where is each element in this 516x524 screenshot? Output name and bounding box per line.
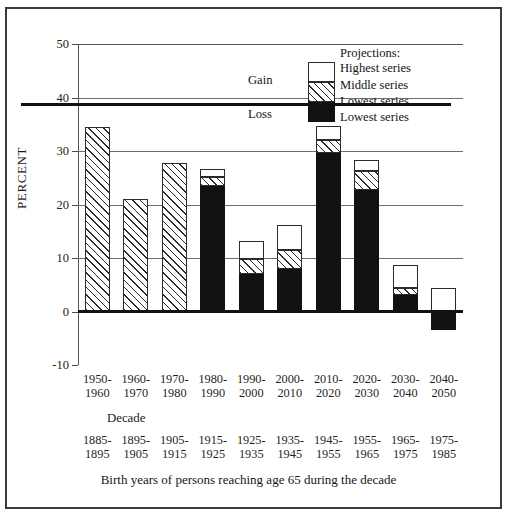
legend-title: Projections: — [340, 46, 400, 61]
y-axis-tick-label: 50 — [57, 37, 70, 52]
x-tick-label-birthyears: 1885-1895 — [78, 433, 117, 461]
x-tick-label-decade: 2000-2010 — [271, 372, 310, 400]
y-axis-tick-label: 30 — [57, 144, 70, 159]
bar-segment-highest — [277, 225, 302, 250]
bar-segment-middle — [277, 250, 302, 269]
x-tick-label-decade: 2010-2020 — [309, 372, 348, 400]
y-axis-title: PERCENT — [14, 147, 30, 209]
bar-segment-middle — [200, 177, 225, 187]
legend-swatch-middle — [308, 82, 335, 102]
x-axis-birthyear-labels: 1885-18951895-19051905-19151915-19251925… — [78, 433, 463, 467]
bar-segment-observed — [85, 127, 110, 312]
bar-1980-1990[interactable] — [200, 44, 225, 365]
bar-segment-lowest — [200, 186, 225, 311]
y-axis-tick-label: -10 — [52, 358, 69, 373]
bottom-caption: Birth years of persons reaching age 65 d… — [0, 472, 497, 488]
legend-gain-label: Gain — [248, 73, 272, 88]
x-tick-label-decade: 1960-1970 — [117, 372, 156, 400]
x-tick-label-decade: 2040-2050 — [425, 372, 464, 400]
x-tick-label-decade: 2030-2040 — [386, 372, 425, 400]
y-axis-tick — [72, 365, 78, 366]
bar-segment-observed — [123, 199, 148, 311]
x-tick-label-birthyears: 1975-1985 — [425, 433, 464, 461]
bar-1950-1960[interactable] — [85, 44, 110, 365]
x-tick-label-birthyears: 1955-1965 — [348, 433, 387, 461]
bar-segment-lowest — [277, 269, 302, 312]
x-tick-label-birthyears: 1935-1945 — [271, 433, 310, 461]
x-tick-label-birthyears: 1925-1935 — [232, 433, 271, 461]
bar-segment-lowest — [354, 190, 379, 312]
legend-item-highest: Highest series — [340, 61, 411, 76]
bar-segment-lowest-negative — [431, 312, 456, 330]
bar-segment-highest — [431, 288, 456, 312]
y-axis-tick-label: 0 — [63, 304, 69, 319]
bar-segment-lowest — [316, 153, 341, 311]
bar-segment-highest — [354, 160, 379, 171]
bar-segment-highest — [239, 241, 264, 259]
bar-segment-lowest — [393, 295, 418, 312]
x-tick-label-decade: 1980-1990 — [194, 372, 233, 400]
bar-segment-lowest — [239, 274, 264, 311]
legend: Projections: Highest series Middle serie… — [236, 46, 451, 130]
x-tick-label-birthyears: 1895-1905 — [117, 433, 156, 461]
legend-item-lowest-upper: Lowest series — [340, 94, 409, 109]
y-axis-tick-label: 20 — [57, 197, 70, 212]
legend-swatch — [308, 62, 335, 122]
legend-swatch-highest — [308, 62, 335, 82]
x-tick-label-birthyears: 1965-1975 — [386, 433, 425, 461]
x-tick-label-decade: 1990-2000 — [232, 372, 271, 400]
legend-item-lowest: Lowest series — [340, 110, 409, 125]
y-axis-tick-label: 10 — [57, 251, 70, 266]
bar-segment-highest — [200, 169, 225, 176]
x-tick-label-birthyears: 1905-1915 — [155, 433, 194, 461]
legend-swatch-lowest — [308, 102, 335, 122]
figure-root: PERCENT 50403020100-10 1950-19601960-197… — [0, 0, 516, 524]
x-tick-label-birthyears: 1945-1955 — [309, 433, 348, 461]
bar-1970-1980[interactable] — [162, 44, 187, 365]
x-axis-decade-labels: 1950-19601960-19701970-19801980-19901990… — [78, 372, 463, 406]
bar-segment-middle — [316, 140, 341, 153]
bar-1960-1970[interactable] — [123, 44, 148, 365]
bar-segment-highest — [393, 265, 418, 289]
x-tick-label-birthyears: 1915-1925 — [194, 433, 233, 461]
bar-segment-observed — [162, 163, 187, 311]
x-tick-label-decade: 1950-1960 — [78, 372, 117, 400]
x-tick-label-decade: 2020-2030 — [348, 372, 387, 400]
zero-baseline — [78, 310, 463, 313]
bar-segment-middle — [354, 171, 379, 189]
x-tick-label-decade: 1970-1980 — [155, 372, 194, 400]
bar-segment-middle — [239, 259, 264, 274]
legend-item-middle: Middle series — [340, 78, 408, 93]
legend-loss-label: Loss — [248, 107, 272, 122]
x-axis-title: Decade — [107, 411, 145, 426]
